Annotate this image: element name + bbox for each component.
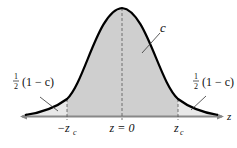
svg-text:(1 − c): (1 − c) (202, 75, 234, 89)
svg-text:1: 1 (194, 72, 198, 81)
tick-neg-zc: −z c (57, 121, 77, 137)
tick-zero: z = 0 (109, 121, 135, 135)
svg-text:2: 2 (194, 82, 198, 91)
right-tail-label: 1 2 (1 − c) (193, 72, 234, 91)
normal-distribution-diagram: c 1 2 (1 − c) 1 2 (1 − c) z −z c z = 0 z… (0, 0, 237, 148)
right-leader-line (191, 96, 206, 110)
svg-text:c: c (73, 128, 77, 137)
axis-label: z (226, 110, 232, 122)
svg-text:c: c (180, 128, 184, 137)
tick-pos-zc: z c (173, 121, 184, 137)
svg-text:1: 1 (14, 72, 18, 81)
svg-text:(1 − c): (1 − c) (22, 75, 54, 89)
svg-text:z: z (173, 121, 179, 135)
center-area-label: c (160, 20, 166, 35)
svg-text:2: 2 (14, 82, 18, 91)
left-tail-label: 1 2 (1 − c) (13, 72, 54, 91)
svg-text:−z: −z (57, 121, 70, 135)
